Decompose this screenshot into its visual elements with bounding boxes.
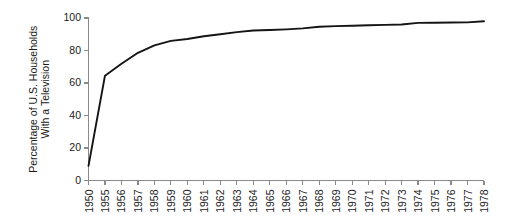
x-axis-tick-label: 1963 xyxy=(231,189,243,213)
x-axis-tick-label: 1966 xyxy=(280,189,292,213)
x-axis-tick-label: 1956 xyxy=(115,189,127,213)
x-axis-tick-label: 1976 xyxy=(445,189,457,213)
x-axis-tick-label: 1965 xyxy=(264,189,276,213)
y-axis-tick-label: 20 xyxy=(69,141,81,153)
x-axis-tick-label: 1960 xyxy=(181,189,193,213)
x-axis-tick-label: 1950 xyxy=(83,189,95,213)
x-axis-tick-label: 1957 xyxy=(132,189,144,213)
y-axis-tick-label: 0 xyxy=(75,174,81,186)
x-axis-tick-label: 1962 xyxy=(214,189,226,213)
x-axis-tick-label: 1971 xyxy=(363,189,375,213)
x-axis-tick-label: 1967 xyxy=(297,189,309,213)
x-axis-tick-label: 1958 xyxy=(148,189,160,213)
x-axis-tick-label: 1961 xyxy=(198,189,210,213)
y-axis-tick-label: 40 xyxy=(69,109,81,121)
x-axis-tick-label: 1959 xyxy=(165,189,177,213)
x-axis-tick-label: 1969 xyxy=(330,189,342,213)
chart-figure: 0204060801001950195519561957195819591960… xyxy=(0,0,510,220)
x-axis-tick-label: 1975 xyxy=(429,189,441,213)
x-axis-tick-label: 1972 xyxy=(379,189,391,213)
y-axis-label-line1: Percentage of U.S. Households xyxy=(27,26,39,173)
x-axis-tick-label: 1964 xyxy=(247,189,259,213)
y-axis-tick-label: 100 xyxy=(63,11,81,23)
y-axis-label-line2: With a Television xyxy=(39,60,51,139)
line-chart: 0204060801001950195519561957195819591960… xyxy=(0,0,510,220)
x-axis-tick-label: 1955 xyxy=(99,189,111,213)
x-axis-tick-label: 1978 xyxy=(478,189,490,213)
x-axis-tick-label: 1968 xyxy=(313,189,325,213)
x-axis-tick-label: 1970 xyxy=(346,189,358,213)
y-axis-tick-label: 60 xyxy=(69,76,81,88)
x-axis-tick-label: 1973 xyxy=(396,189,408,213)
data-series-line xyxy=(89,21,485,166)
x-axis-tick-label: 1974 xyxy=(412,189,424,213)
y-axis-tick-label: 80 xyxy=(69,44,81,56)
x-axis-tick-label: 1977 xyxy=(462,189,474,213)
